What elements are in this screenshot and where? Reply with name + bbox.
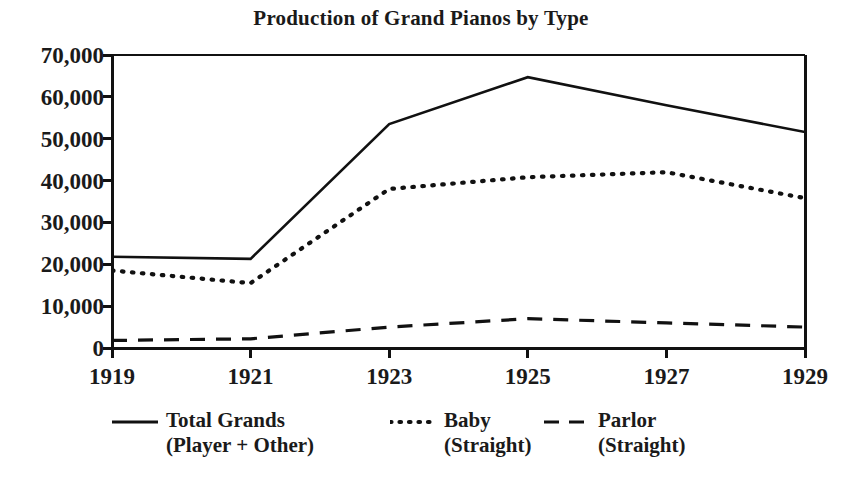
legend-sublabel: (Straight) xyxy=(444,433,532,458)
x-axis-tick-labels: 191919211923192519271929 xyxy=(0,365,842,397)
chart-legend: Total Grands(Player + Other)Baby(Straigh… xyxy=(112,408,812,470)
chart-figure: Production of Grand Pianos by Type 70,00… xyxy=(0,0,842,482)
x-tick-label: 1929 xyxy=(750,365,842,388)
x-tick-label: 1919 xyxy=(57,365,167,388)
x-tick-label: 1921 xyxy=(196,365,306,388)
legend-label: Baby xyxy=(444,408,532,433)
x-tick-label: 1923 xyxy=(334,365,444,388)
x-tick-label: 1927 xyxy=(611,365,721,388)
legend-sublabel: (Straight) xyxy=(598,433,686,458)
legend-text: Total Grands(Player + Other) xyxy=(166,408,314,458)
legend-line-sample-dotted xyxy=(390,417,436,427)
legend-text: Parlor(Straight) xyxy=(598,408,686,458)
x-tick-label: 1925 xyxy=(473,365,583,388)
legend-sublabel: (Player + Other) xyxy=(166,433,314,458)
legend-label: Parlor xyxy=(598,408,686,433)
legend-text: Baby(Straight) xyxy=(444,408,532,458)
legend-line-sample-dashed xyxy=(544,417,590,427)
legend-label: Total Grands xyxy=(166,408,314,433)
legend-line-sample-solid xyxy=(112,417,158,427)
